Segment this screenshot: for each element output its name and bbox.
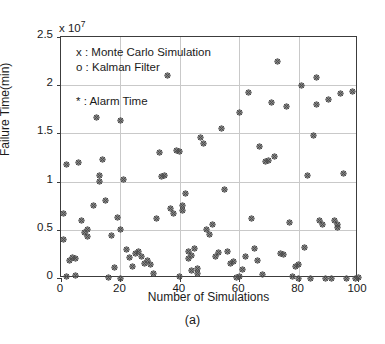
gridline-horizontal (61, 85, 356, 86)
data-point-marker (194, 265, 201, 272)
data-point-marker (283, 103, 290, 110)
data-point-marker (188, 252, 195, 259)
data-point-marker (75, 159, 82, 166)
data-point-marker (72, 255, 79, 262)
data-point-marker (268, 99, 275, 106)
data-point-marker (135, 248, 142, 255)
data-point-marker (316, 217, 323, 224)
data-point-marker (167, 205, 174, 212)
y-tick-mark (57, 182, 61, 183)
data-point-marker (138, 253, 145, 260)
data-point-marker (271, 153, 278, 160)
data-point-marker (66, 257, 73, 264)
data-point-marker (262, 158, 269, 165)
data-point-marker (60, 236, 67, 243)
data-point-marker (313, 74, 320, 81)
y-axis-exponent-label: x 107 (59, 19, 85, 34)
data-point-marker (227, 260, 234, 267)
data-point-marker (111, 264, 118, 271)
data-point-marker (313, 101, 320, 108)
data-point-marker (191, 245, 198, 252)
data-point-marker (141, 260, 148, 267)
data-point-marker (331, 217, 338, 224)
data-point-marker (218, 125, 225, 132)
data-point-marker (304, 172, 311, 179)
data-point-marker (93, 114, 100, 121)
data-point-marker (153, 215, 160, 222)
data-point-marker (242, 253, 249, 260)
data-point-marker (328, 275, 335, 282)
data-point-marker (132, 250, 139, 257)
plot-area: x : Monte Carlo Simulation o : Kalman Fi… (60, 36, 357, 277)
data-point-marker (200, 140, 207, 147)
data-point-marker (322, 275, 329, 282)
y-tick-label: 2.5 (0, 28, 53, 40)
data-point-marker (256, 143, 263, 150)
data-point-marker (265, 157, 272, 164)
data-point-marker (215, 249, 222, 256)
legend: x : Monte Carlo Simulation o : Kalman Fi… (76, 45, 211, 75)
data-point-marker (78, 217, 85, 224)
data-point-marker (147, 261, 154, 268)
figure-caption: (a) (0, 313, 385, 327)
data-point-marker (150, 270, 157, 277)
gridline-horizontal (61, 133, 356, 134)
data-point-marker (251, 245, 258, 252)
data-point-marker (259, 271, 266, 278)
y-tick-label: 1 (0, 173, 53, 185)
data-point-marker (99, 156, 106, 163)
data-point-marker (123, 246, 130, 253)
data-point-marker (307, 275, 314, 282)
data-point-marker (161, 172, 168, 179)
x-tick-label: 60 (232, 282, 245, 294)
data-point-marker (126, 254, 133, 261)
y-tick-label: 1.5 (0, 124, 53, 136)
legend-item-monte-carlo: x : Monte Carlo Simulation (76, 45, 211, 60)
data-point-marker (206, 231, 213, 238)
data-point-marker (108, 232, 115, 239)
gridline-horizontal (61, 230, 356, 231)
data-point-marker (343, 275, 350, 282)
data-point-marker (248, 215, 255, 222)
y-tick-mark (57, 230, 61, 231)
gridline-vertical (239, 37, 240, 276)
data-point-marker (158, 173, 165, 180)
data-point-marker (60, 210, 67, 217)
data-point-marker (96, 172, 103, 179)
data-point-marker (84, 233, 91, 240)
data-point-marker (254, 257, 261, 264)
data-point-marker (105, 274, 112, 281)
data-point-marker (194, 270, 201, 277)
x-tick-label: 40 (172, 282, 185, 294)
data-point-marker (245, 89, 252, 96)
data-point-marker (286, 219, 293, 226)
data-point-marker (337, 90, 344, 97)
data-point-marker (212, 253, 219, 260)
y-tick-label: 0 (0, 269, 53, 281)
y-tick-mark (57, 85, 61, 86)
data-point-marker (129, 263, 136, 270)
y-tick-mark (57, 37, 61, 38)
legend-item-kalman-filter: o : Kalman Filter (76, 60, 211, 75)
data-point-marker (340, 170, 347, 177)
data-point-marker (156, 149, 163, 156)
data-point-marker (144, 257, 151, 264)
data-point-marker (221, 186, 228, 193)
x-tick-label: 80 (291, 282, 304, 294)
data-point-marker (102, 197, 109, 204)
x-tick-label: 0 (57, 282, 63, 294)
data-point-marker (301, 244, 308, 251)
gridline-horizontal (61, 182, 356, 183)
data-point-marker (188, 267, 195, 274)
data-point-marker (277, 250, 284, 257)
gridline-vertical (299, 37, 300, 276)
x-tick-label: 100 (347, 282, 366, 294)
data-point-marker (197, 134, 204, 141)
data-point-marker (185, 255, 192, 262)
data-point-marker (289, 273, 296, 280)
figure-container: x 107 Failure Time(min) Number of Simula… (0, 0, 385, 344)
legend-item-alarm-time: * : Alarm Time (76, 95, 148, 107)
data-point-marker (224, 248, 231, 255)
data-point-marker (90, 202, 97, 209)
data-point-marker (280, 251, 287, 258)
